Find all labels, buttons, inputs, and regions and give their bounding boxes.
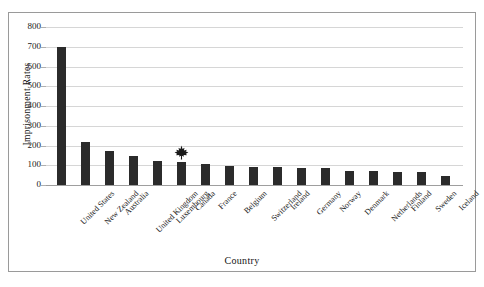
y-tick-mark-400 xyxy=(41,106,46,107)
bar-belgium xyxy=(225,166,234,185)
y-tick-mark-700 xyxy=(41,47,46,48)
y-tick-label-200: 200 xyxy=(0,141,41,150)
maple-leaf-icon xyxy=(174,145,189,160)
top-text-fragment xyxy=(352,0,462,7)
x-tick-label-germany: Germany xyxy=(314,189,342,217)
x-axis-title: Country xyxy=(9,255,475,266)
y-tick-label-100: 100 xyxy=(0,160,41,169)
bar-ireland xyxy=(273,167,282,185)
bar-new-zealand xyxy=(81,142,90,185)
gridline-200 xyxy=(46,146,463,147)
bar-denmark xyxy=(345,171,354,185)
y-tick-mark-600 xyxy=(41,67,46,68)
bar-france xyxy=(201,164,210,185)
gridline-700 xyxy=(46,47,463,48)
bar-luxembourg xyxy=(153,161,162,185)
x-tick-label-iceland: Iceland xyxy=(457,189,480,212)
y-tick-mark-800 xyxy=(41,27,46,28)
bar-united-states xyxy=(57,47,66,185)
bar-canada xyxy=(177,162,186,185)
bar-finland xyxy=(393,172,402,185)
bar-sweden xyxy=(417,172,426,185)
bar-norway xyxy=(321,168,330,185)
bar-switzerland xyxy=(249,167,258,185)
chart-figure: Imprisonment Rates 010020030040050060070… xyxy=(8,12,476,272)
y-tick-label-700: 700 xyxy=(0,42,41,51)
y-tick-label-0: 0 xyxy=(0,180,41,189)
x-tick-label-denmark: Denmark xyxy=(362,189,390,217)
gridline-0 xyxy=(46,185,463,186)
bar-germany xyxy=(297,168,306,185)
gridline-800 xyxy=(46,27,463,28)
gridline-400 xyxy=(46,106,463,107)
gridline-300 xyxy=(46,126,463,127)
gridline-500 xyxy=(46,86,463,87)
y-tick-label-300: 300 xyxy=(0,121,41,130)
y-tick-label-400: 400 xyxy=(0,101,41,110)
x-tick-label-france: France xyxy=(216,189,238,211)
plot-area: 0100200300400500600700800 xyxy=(46,27,463,185)
gridline-600 xyxy=(46,67,463,68)
y-tick-mark-0 xyxy=(41,185,46,186)
y-tick-mark-200 xyxy=(41,146,46,147)
y-tick-mark-300 xyxy=(41,126,46,127)
bar-netherlands xyxy=(369,171,378,185)
y-tick-label-500: 500 xyxy=(0,81,41,90)
bar-australia xyxy=(105,151,114,185)
y-tick-mark-100 xyxy=(41,165,46,166)
x-axis-tick-labels: United StatesNew ZealandAustraliaUnited … xyxy=(46,189,463,261)
y-tick-mark-500 xyxy=(41,86,46,87)
bar-iceland xyxy=(441,176,450,185)
x-tick-label-sweden: Sweden xyxy=(433,189,458,214)
bar-united-kingdom xyxy=(129,156,138,185)
x-tick-label-belgium: Belgium xyxy=(242,189,268,215)
y-tick-label-600: 600 xyxy=(0,62,41,71)
y-tick-label-800: 800 xyxy=(0,22,41,31)
